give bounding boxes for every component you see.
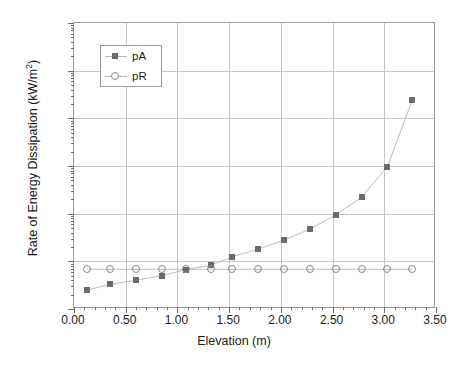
- x-axis-title: Elevation (m): [0, 334, 468, 348]
- y-axis-title-text: Rate of Energy Dissipation (kW/m: [26, 69, 40, 257]
- legend-entry-pa: pA: [101, 46, 161, 67]
- data-point-pr: [207, 265, 215, 273]
- data-point-pr: [358, 265, 366, 273]
- data-point-pa: [255, 246, 261, 252]
- data-point-pa: [133, 277, 139, 283]
- data-point-pa: [159, 273, 165, 279]
- data-point-pa: [384, 164, 390, 170]
- filled-square-icon: [112, 53, 118, 59]
- y-axis-title-suffix: ): [26, 60, 40, 64]
- legend-label-pr: pR: [132, 70, 147, 82]
- data-point-pa: [229, 254, 235, 260]
- data-point-pa: [84, 287, 90, 293]
- data-point-pa: [409, 97, 415, 103]
- plot-area: 0.0010.010.11101001000 pA pR: [73, 22, 435, 308]
- open-circle-icon: [111, 72, 119, 80]
- legend-label-pa: pA: [132, 50, 146, 62]
- legend: pA pR: [100, 45, 162, 87]
- data-point-pa: [281, 237, 287, 243]
- data-point-pr: [182, 265, 190, 273]
- data-point-pa: [359, 194, 365, 200]
- y-axis-title-exponent: 2: [24, 64, 34, 69]
- x-tick-label: 3.50: [405, 314, 465, 326]
- data-point-pa: [307, 226, 313, 232]
- data-point-pa: [333, 212, 339, 218]
- data-point-pr: [332, 265, 340, 273]
- legend-entry-pr: pR: [101, 66, 161, 87]
- data-point-pa: [107, 281, 113, 287]
- x-minor-tick: [436, 307, 437, 310]
- chart-figure: Rate of Energy Dissipation (kW/m2) Eleva…: [0, 0, 468, 368]
- y-axis-title: Rate of Energy Dissipation (kW/m2): [24, 13, 40, 303]
